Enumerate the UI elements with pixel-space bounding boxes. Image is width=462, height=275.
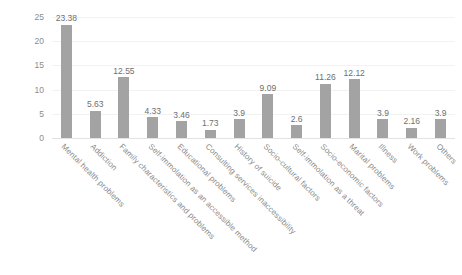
bar-series: 23.385.6312.554.333.461.733.99.092.611.2… bbox=[52, 17, 455, 138]
x-tick-slot: Socio-economic factors bbox=[311, 140, 340, 273]
y-tick-label: 20 bbox=[4, 37, 44, 46]
bar-slot: 12.12 bbox=[340, 17, 369, 138]
bar-slot: 23.38 bbox=[52, 17, 81, 138]
bar-slot: 5.63 bbox=[81, 17, 110, 138]
x-tick-slot: Family characteristics and problems bbox=[110, 140, 139, 273]
bar bbox=[176, 121, 187, 138]
bar-value-label: 23.38 bbox=[56, 14, 77, 23]
x-tick-slot: Educational problems bbox=[167, 140, 196, 273]
x-tick-slot: Others bbox=[426, 140, 455, 273]
bar-slot: 1.73 bbox=[196, 17, 225, 138]
y-tick-label: 15 bbox=[4, 61, 44, 70]
x-tick-slot: Self-immolation as a threat bbox=[282, 140, 311, 273]
x-tick-label: Others bbox=[434, 142, 458, 166]
bar-value-label: 3.9 bbox=[435, 109, 447, 118]
bar-slot: 3.9 bbox=[369, 17, 398, 138]
bar-value-label: 12.12 bbox=[344, 69, 365, 78]
bar bbox=[90, 111, 101, 138]
x-tick-slot: Work problems bbox=[397, 140, 426, 273]
y-tick-label: 0 bbox=[4, 134, 44, 143]
y-tick-label: 25 bbox=[4, 13, 44, 22]
y-tick-label: 10 bbox=[4, 85, 44, 94]
bar-value-label: 12.55 bbox=[113, 67, 134, 76]
bar bbox=[262, 94, 273, 138]
bar bbox=[406, 128, 417, 138]
bar bbox=[435, 119, 446, 138]
bar-value-label: 9.09 bbox=[260, 84, 277, 93]
bar-value-label: 3.9 bbox=[233, 109, 245, 118]
x-tick-slot: Consulting services inaccessibility bbox=[196, 140, 225, 273]
bar-slot: 3.9 bbox=[225, 17, 254, 138]
bar-value-label: 5.63 bbox=[87, 100, 104, 109]
bar bbox=[205, 130, 216, 138]
y-axis: 25 20 15 10 5 0 bbox=[0, 17, 44, 138]
bar-value-label: 3.9 bbox=[377, 109, 389, 118]
bar bbox=[234, 119, 245, 138]
bar-slot: 9.09 bbox=[253, 17, 282, 138]
bar-slot: 12.55 bbox=[110, 17, 139, 138]
bar-slot: 2.16 bbox=[397, 17, 426, 138]
x-axis: Mental health problemsAddictionFamily ch… bbox=[52, 140, 455, 273]
y-tick-label: 5 bbox=[4, 110, 44, 119]
bar bbox=[61, 25, 72, 138]
x-tick-slot: Socio-cultural factors bbox=[253, 140, 282, 273]
x-tick-slot: Mental health problems bbox=[52, 140, 81, 273]
axis-baseline bbox=[52, 138, 455, 139]
bar bbox=[291, 125, 302, 138]
bar-slot: 11.26 bbox=[311, 17, 340, 138]
bar-slot: 4.33 bbox=[138, 17, 167, 138]
bar-value-label: 1.73 bbox=[202, 119, 219, 128]
bar-value-label: 2.16 bbox=[403, 117, 420, 126]
bar-slot: 2.6 bbox=[282, 17, 311, 138]
bar bbox=[118, 77, 129, 138]
x-tick-slot: Self-immolation as an accessible method bbox=[138, 140, 167, 273]
x-tick-label: Illness bbox=[377, 142, 400, 165]
x-tick-slot: Illness bbox=[369, 140, 398, 273]
bar bbox=[377, 119, 388, 138]
bar-slot: 3.9 bbox=[426, 17, 455, 138]
bar-chart: 25 20 15 10 5 0 23.385.6312.554.333.461.… bbox=[0, 0, 462, 275]
bar-value-label: 11.26 bbox=[315, 73, 336, 82]
bar-value-label: 2.6 bbox=[291, 115, 303, 124]
bar-value-label: 4.33 bbox=[144, 107, 161, 116]
bar-value-label: 3.46 bbox=[173, 111, 190, 120]
x-tick-slot: Addiction bbox=[81, 140, 110, 273]
bar-slot: 3.46 bbox=[167, 17, 196, 138]
x-tick-slot: Marital problems bbox=[340, 140, 369, 273]
bar bbox=[349, 79, 360, 138]
bar bbox=[147, 117, 158, 138]
x-tick-slot: History of suicide bbox=[225, 140, 254, 273]
bar bbox=[320, 84, 331, 138]
